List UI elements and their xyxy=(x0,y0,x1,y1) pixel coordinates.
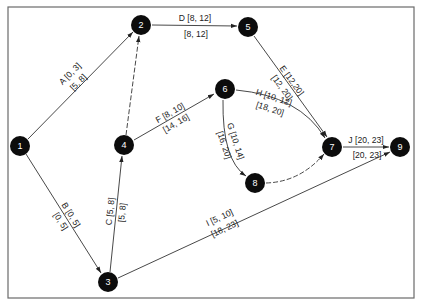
node-2-label: 2 xyxy=(138,20,143,30)
dummy-edge-4-2 xyxy=(126,36,139,135)
edge-f xyxy=(134,94,214,140)
edge-j-ls-lf-label: [20, 23] xyxy=(353,150,382,160)
node-4: 4 xyxy=(114,135,134,155)
node-1-label: 1 xyxy=(17,141,22,151)
edge-c-ls-lf-label: [5, 8] xyxy=(116,203,128,223)
edge-i xyxy=(118,152,390,278)
node-7-label: 7 xyxy=(329,142,334,152)
node-5: 5 xyxy=(238,17,258,37)
node-2: 2 xyxy=(131,15,151,35)
node-6: 6 xyxy=(215,79,235,99)
node-3-label: 3 xyxy=(105,277,110,287)
node-8-label: 8 xyxy=(252,178,257,188)
node-4-label: 4 xyxy=(121,140,126,150)
edge-d xyxy=(152,25,237,26)
node-9-label: 9 xyxy=(397,142,402,152)
edge-j-es-ef-label: J [20, 23] xyxy=(348,135,383,145)
node-6-label: 6 xyxy=(222,84,227,94)
dummy-edge-8-7 xyxy=(266,154,324,183)
edge-d-es-ef-label: D [8, 12] xyxy=(179,13,211,23)
node-3: 3 xyxy=(98,272,118,292)
network-diagram: A [0, 3] [5, 8] B [0, 5] [0, 5] C [5, 8]… xyxy=(0,0,421,306)
edge-c-es-ef-label: C [5, 8] xyxy=(104,197,117,226)
edge-b xyxy=(26,154,101,273)
node-5-label: 5 xyxy=(245,22,250,32)
edge-d-ls-lf-label: [8, 12] xyxy=(184,29,208,39)
node-9: 9 xyxy=(390,137,410,157)
node-1: 1 xyxy=(10,136,30,156)
node-7: 7 xyxy=(322,137,342,157)
node-8: 8 xyxy=(245,173,265,193)
